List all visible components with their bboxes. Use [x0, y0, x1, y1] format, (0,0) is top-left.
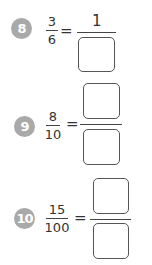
denominator-answer-box[interactable] — [83, 129, 120, 165]
fraction-bar — [46, 218, 68, 219]
fraction-bar — [77, 32, 116, 33]
denominator: 10 — [45, 128, 62, 141]
numerator: 8 — [49, 110, 57, 123]
equals-sign: = — [60, 24, 73, 39]
exercise-number-badge: 8 — [11, 18, 32, 39]
fraction-bar — [46, 125, 60, 126]
denominator: 6 — [48, 33, 56, 46]
denominator: 100 — [45, 221, 70, 234]
given-fraction: 3 6 — [46, 15, 58, 46]
denominator-answer-box[interactable] — [93, 223, 129, 259]
fraction-bar — [80, 124, 122, 125]
given-numerator: 1 — [92, 14, 102, 29]
numerator: 3 — [48, 15, 56, 28]
numerator-answer-box[interactable] — [83, 83, 120, 119]
exercise-number-badge: 9 — [14, 116, 35, 137]
equals-sign: = — [74, 211, 87, 226]
numerator-answer-box[interactable] — [93, 178, 129, 214]
given-fraction: 8 10 — [46, 110, 60, 141]
denominator-answer-box[interactable] — [78, 37, 115, 72]
equals-sign: = — [66, 117, 79, 132]
fraction-bar — [90, 219, 131, 220]
given-fraction: 15 100 — [46, 203, 68, 234]
numerator: 15 — [49, 203, 66, 216]
exercise-number-badge: 10 — [14, 208, 35, 229]
fraction-bar — [46, 30, 58, 31]
